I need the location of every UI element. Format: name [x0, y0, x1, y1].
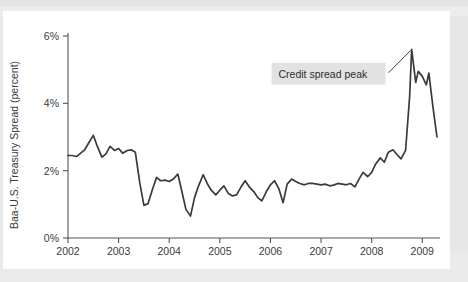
x-tick-label: 2008	[360, 245, 384, 257]
x-tick-label: 2007	[309, 245, 333, 257]
y-tick-label: 2%	[44, 165, 59, 177]
figure-root: 0%2%4%6% 2002200320042005200620072008200…	[0, 0, 468, 282]
y-axis-title: Baa-U.S. Treasury Spread (percent)	[8, 61, 20, 229]
x-tick-label: 2003	[107, 245, 131, 257]
x-tick-label: 2005	[208, 245, 232, 257]
y-tick-label: 6%	[44, 30, 59, 42]
line-chart-svg: 0%2%4%6% 2002200320042005200620072008200…	[3, 11, 450, 269]
x-tick-label: 2006	[259, 245, 283, 257]
annotation-label: Credit spread peak	[279, 68, 368, 80]
x-tick-label: 2009	[411, 245, 435, 257]
y-tick-label: 4%	[44, 97, 59, 109]
annotation-leader-line	[389, 50, 411, 72]
annotation-group: Credit spread peak	[272, 50, 411, 84]
chart-plot-area: 0%2%4%6% 2002200320042005200620072008200…	[3, 11, 450, 269]
chart-card: 0%2%4%6% 2002200320042005200620072008200…	[3, 11, 450, 269]
x-tick-label: 2002	[56, 245, 80, 257]
x-tick-label: 2004	[158, 245, 182, 257]
x-axis-ticks: 20022003200420052006200720082009	[56, 238, 434, 257]
y-axis-ticks: 0%2%4%6%	[44, 30, 68, 244]
y-tick-label: 0%	[44, 232, 59, 244]
